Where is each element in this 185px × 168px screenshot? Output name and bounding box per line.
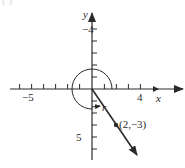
- x-tick-label-neg5: −5: [22, 91, 34, 103]
- x-axis-ticks: [20, 84, 141, 89]
- coordinate-diagram: ( ): [0, 0, 185, 168]
- point-marker: [114, 123, 118, 127]
- diagram-svg: ( ): [0, 0, 185, 168]
- y-axis-label: y: [82, 8, 88, 20]
- clipped-label-fragment: ( ): [2, 0, 12, 7]
- y-tick-label-neg4: 5: [76, 131, 82, 143]
- point-label: (2,−3): [119, 118, 147, 131]
- x-tick-label-4: 4: [137, 91, 143, 103]
- angle-label: r: [102, 101, 107, 113]
- y-tick-label-5: −4: [82, 23, 94, 35]
- angle-arrow-icon: [92, 106, 100, 107]
- x-axis-label: x: [155, 92, 161, 104]
